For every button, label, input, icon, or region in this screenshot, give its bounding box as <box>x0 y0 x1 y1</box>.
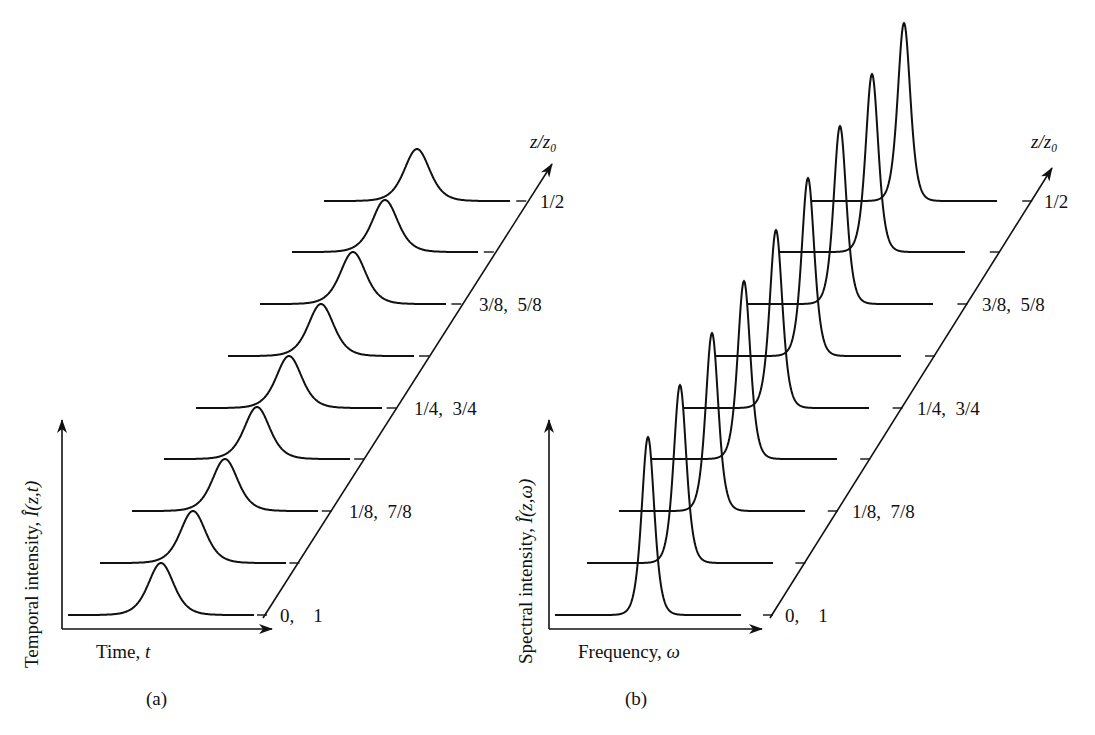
panel-b-x-axis-label: Frequency, ω <box>578 642 680 661</box>
curve-1 <box>587 385 773 563</box>
curve-5 <box>715 178 901 356</box>
panel-a-y-axis-label: Temporal intensity, Î(z,t) <box>22 481 41 668</box>
panel-b-curves <box>555 23 997 615</box>
waterfall-plots <box>0 0 1095 735</box>
curve-6 <box>260 252 446 304</box>
curve-5 <box>228 304 414 356</box>
panel-b-z-tick-4: 1/4, 3/4 <box>917 399 980 418</box>
curve-0 <box>555 437 741 615</box>
curve-3 <box>164 407 350 459</box>
panel-b-caption: (b) <box>625 688 647 710</box>
panel-a-caption: (a) <box>146 688 167 710</box>
curve-7 <box>292 200 478 252</box>
panel-a-curves <box>68 149 510 615</box>
curve-2 <box>619 333 805 511</box>
panel-a-x-axis-label: Time, t <box>96 642 150 661</box>
panel-b-z-tick-6: 3/8, 5/8 <box>982 295 1045 314</box>
figure: Time, t Temporal intensity, Î(z,t) z/z₀ … <box>0 0 1095 735</box>
panel-a-z-tick-4: 1/4, 3/4 <box>414 399 477 418</box>
panel-b-z-tick-2: 1/8, 7/8 <box>852 502 915 521</box>
panel-b-z-tick-0: 0, 1 <box>785 606 828 625</box>
curve-4 <box>196 356 382 408</box>
panel-a-z-tick-2: 1/8, 7/8 <box>349 502 412 521</box>
panel-b-z-axis <box>770 168 1052 618</box>
curve-6 <box>747 126 933 304</box>
curve-7 <box>779 74 965 252</box>
curve-2 <box>132 459 318 511</box>
panel-a-z-axis-label: z/z₀ <box>530 132 557 151</box>
panel-b-y-axis-label: Spectral intensity, Î(z,ω) <box>516 479 535 664</box>
curve-0 <box>68 563 254 615</box>
curve-3 <box>651 281 837 459</box>
panel-a-z-tick-0: 0, 1 <box>280 606 323 625</box>
curve-8 <box>811 23 997 201</box>
panel-b-z-tick-8: 1/2 <box>1044 192 1068 211</box>
curve-8 <box>324 149 510 201</box>
panel-a-z-tick-6: 3/8, 5/8 <box>479 295 542 314</box>
curve-1 <box>100 511 286 563</box>
panel-b-z-axis-label: z/z₀ <box>1031 132 1058 151</box>
panel-a-z-tick-8: 1/2 <box>540 192 564 211</box>
curve-4 <box>683 230 869 408</box>
